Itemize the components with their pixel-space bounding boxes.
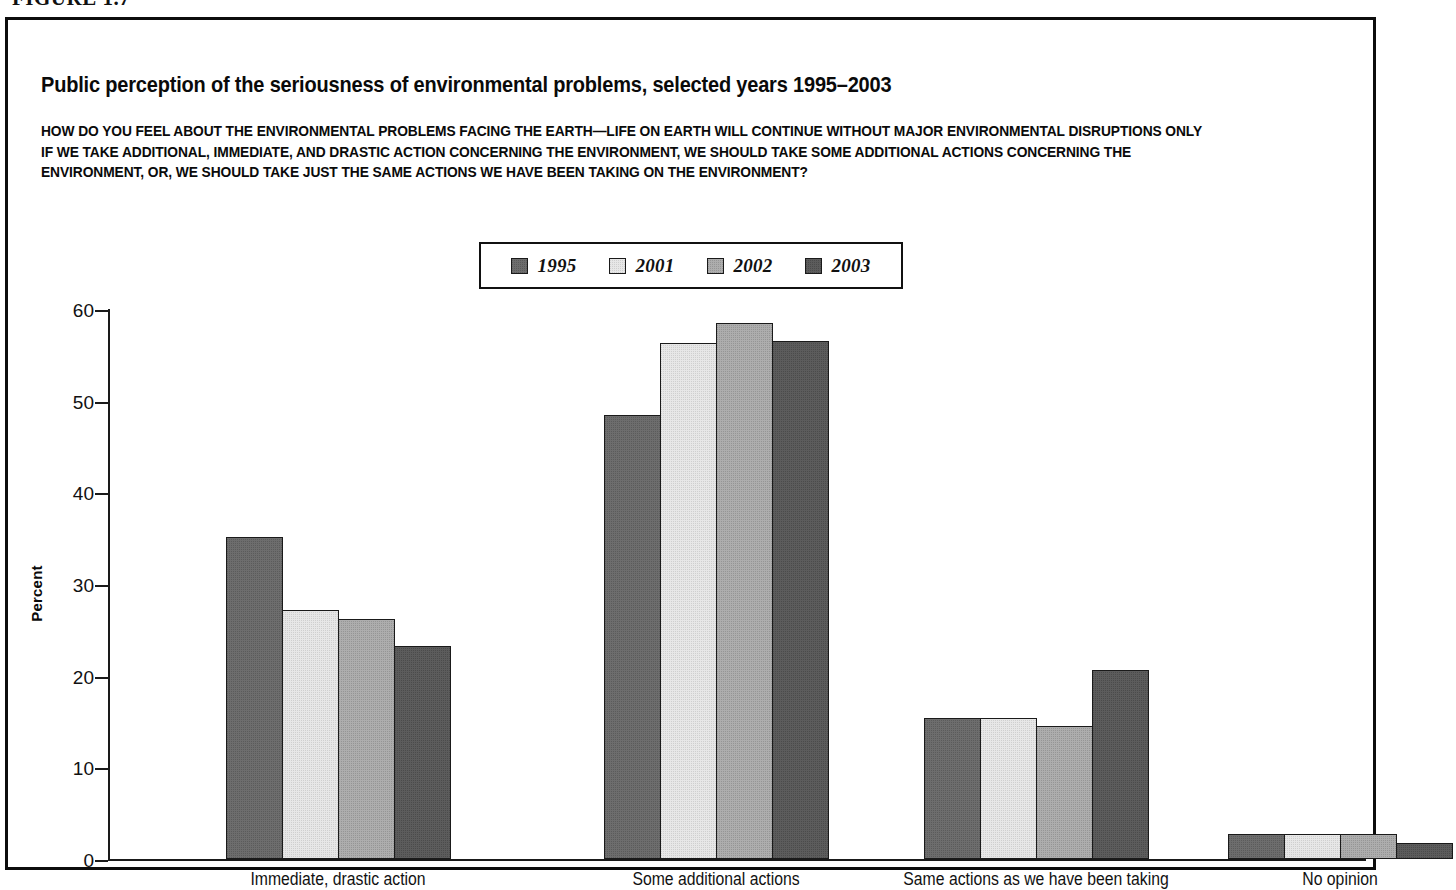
survey-question-line: HOW DO YOU FEEL ABOUT THE ENVIRONMENTAL … xyxy=(41,121,1293,142)
y-tick-label: 60 xyxy=(73,300,94,322)
bar-2002 xyxy=(338,619,395,859)
survey-question: HOW DO YOU FEEL ABOUT THE ENVIRONMENTAL … xyxy=(41,121,1293,183)
legend-item-1995: 1995 xyxy=(511,255,576,277)
x-axis-label: Same actions as we have been taking xyxy=(903,869,1168,890)
figure-number: FIGURE 1.7 xyxy=(12,0,130,11)
bar-2003 xyxy=(394,646,451,859)
bar-2003 xyxy=(772,341,829,859)
chart-plot-area: Percent 0102030405060 Immediate, drastic… xyxy=(108,309,1366,861)
bar-2001 xyxy=(980,718,1037,859)
y-tick-label: 50 xyxy=(73,392,94,414)
legend-swatch-1995 xyxy=(511,258,528,274)
y-tick-label: 10 xyxy=(73,758,94,780)
bar-1995 xyxy=(924,718,981,859)
bar-2003 xyxy=(1092,670,1149,859)
survey-question-line: IF WE TAKE ADDITIONAL, IMMEDIATE, AND DR… xyxy=(41,142,1293,163)
y-tick xyxy=(95,310,108,312)
legend-swatch-2003 xyxy=(805,258,822,274)
legend-item-2003: 2003 xyxy=(805,255,870,277)
legend-swatch-2002 xyxy=(707,258,724,274)
bar-2001 xyxy=(282,610,339,859)
y-axis-title: Percent xyxy=(28,565,45,621)
legend-item-2002: 2002 xyxy=(707,255,772,277)
survey-question-line: ENVIRONMENT, OR, WE SHOULD TAKE JUST THE… xyxy=(41,162,1293,183)
bar-groups xyxy=(110,309,1366,859)
bar-group xyxy=(604,309,832,859)
y-tick-label: 30 xyxy=(73,575,94,597)
y-tick xyxy=(95,402,108,404)
figure-frame: Public perception of the seriousness of … xyxy=(5,17,1376,870)
y-tick xyxy=(95,585,108,587)
bar-2003 xyxy=(1396,843,1453,860)
legend-label-1995: 1995 xyxy=(537,255,576,277)
bar-group xyxy=(226,309,454,859)
y-tick xyxy=(95,493,108,495)
bar-group xyxy=(1228,309,1456,859)
y-tick xyxy=(95,860,108,862)
bar-group xyxy=(924,309,1152,859)
y-tick-label: 0 xyxy=(83,850,94,872)
bar-2002 xyxy=(1036,726,1093,859)
bar-2002 xyxy=(1340,834,1397,859)
y-tick-label: 40 xyxy=(73,483,94,505)
x-axis-label: Some additional actions xyxy=(632,869,799,890)
bar-2001 xyxy=(660,343,717,859)
y-tick xyxy=(95,768,108,770)
chart-legend: 1995200120022003 xyxy=(479,242,903,289)
legend-label-2001: 2001 xyxy=(635,255,674,277)
legend-item-2001: 2001 xyxy=(609,255,674,277)
bar-1995 xyxy=(1228,834,1285,859)
bar-2002 xyxy=(716,323,773,859)
bar-2001 xyxy=(1284,834,1341,859)
legend-swatch-2001 xyxy=(609,258,626,274)
legend-label-2003: 2003 xyxy=(831,255,870,277)
bar-1995 xyxy=(604,415,661,859)
x-axis-label: No opinion xyxy=(1302,869,1377,890)
x-axis-label: Immediate, drastic action xyxy=(250,869,425,890)
x-axis-line xyxy=(108,859,1366,861)
figure-title: Public perception of the seriousness of … xyxy=(41,73,891,98)
y-tick xyxy=(95,677,108,679)
legend-label-2002: 2002 xyxy=(733,255,772,277)
y-tick-label: 20 xyxy=(73,667,94,689)
bar-1995 xyxy=(226,537,283,859)
